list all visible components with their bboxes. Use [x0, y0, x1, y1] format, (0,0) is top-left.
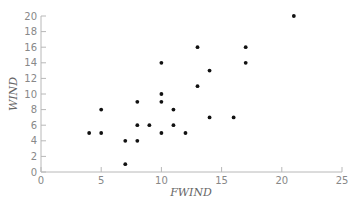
data-point — [123, 139, 127, 143]
data-point — [99, 108, 103, 112]
y-tick-label: 6 — [31, 120, 37, 131]
x-tick-label: 0 — [38, 175, 44, 186]
x-tick-label: 25 — [336, 175, 349, 186]
data-point — [160, 100, 164, 104]
data-point — [99, 131, 103, 135]
data-point — [160, 61, 164, 65]
data-point — [184, 131, 188, 135]
data-point — [292, 14, 296, 18]
data-point — [160, 131, 164, 135]
scatter-chart: 051015202502468101214161820 FWIND WIND — [0, 0, 359, 205]
data-point — [147, 123, 151, 127]
data-point — [244, 45, 248, 49]
data-point — [172, 123, 176, 127]
data-point — [208, 69, 212, 73]
y-tick-label: 12 — [24, 73, 37, 84]
data-point — [196, 84, 200, 88]
y-tick-label: 0 — [31, 167, 37, 178]
y-tick-label: 14 — [24, 57, 37, 68]
data-point — [87, 131, 91, 135]
y-axis-title: WIND — [7, 77, 20, 111]
data-point — [135, 123, 139, 127]
data-points — [87, 14, 295, 166]
data-point — [123, 162, 127, 166]
y-tick-label: 16 — [24, 42, 37, 53]
x-axis-title: FWIND — [169, 186, 212, 199]
data-point — [196, 45, 200, 49]
x-tick-label: 5 — [98, 175, 104, 186]
axes: 051015202502468101214161820 — [24, 11, 348, 187]
y-tick-label: 18 — [24, 26, 37, 37]
x-tick-label: 20 — [275, 175, 288, 186]
data-point — [244, 61, 248, 65]
y-tick-label: 20 — [24, 11, 37, 22]
data-point — [135, 139, 139, 143]
data-point — [160, 92, 164, 96]
y-tick-label: 8 — [31, 104, 37, 115]
x-tick-label: 10 — [155, 175, 168, 186]
data-point — [208, 116, 212, 120]
y-tick-label: 10 — [24, 89, 37, 100]
data-point — [135, 100, 139, 104]
data-point — [172, 108, 176, 112]
y-tick-label: 2 — [31, 151, 37, 162]
x-tick-label: 15 — [215, 175, 228, 186]
y-tick-label: 4 — [31, 135, 37, 146]
data-point — [232, 116, 236, 120]
